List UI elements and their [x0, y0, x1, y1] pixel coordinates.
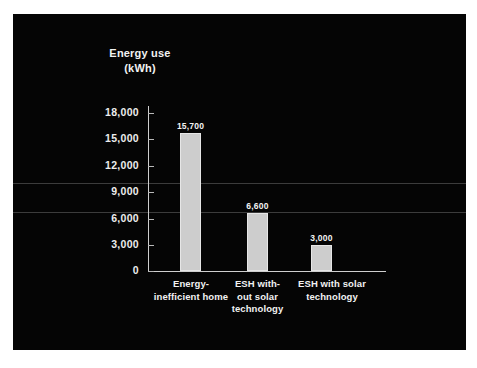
y-axis-tick-mark — [148, 245, 154, 246]
y-axis-tick-label: 0 — [133, 264, 139, 276]
bar-energy-inefficient-home — [180, 133, 201, 271]
bar-esh-without-solar — [247, 213, 268, 271]
bar-value-label: 3,000 — [296, 233, 347, 243]
y-axis-tick-mark — [148, 113, 154, 114]
y-axis-tick-label: 15,000 — [105, 132, 139, 144]
y-axis-title-line-1: Energy use — [85, 46, 195, 61]
y-axis-tick-mark — [148, 271, 154, 272]
y-axis-tick-label: 18,000 — [105, 106, 139, 118]
bar-value-label: 6,600 — [232, 201, 283, 211]
y-axis-tick-mark — [148, 139, 154, 140]
y-axis-tick-label: 3,000 — [111, 238, 139, 250]
y-axis-tick-label: 6,000 — [111, 212, 139, 224]
y-axis-tick-mark — [148, 192, 154, 193]
y-axis-tick-mark — [148, 166, 154, 167]
x-axis-category-esh-with-solar: ESH with solar technology — [283, 278, 381, 303]
scan-artifact-line-lower — [13, 212, 466, 213]
category-line: technology — [283, 291, 381, 304]
y-axis-tick-label: 12,000 — [105, 159, 139, 171]
category-line: technology — [220, 303, 295, 316]
chart-panel: Energy use (kWh) 18,000 15,000 12,000 9,… — [13, 14, 466, 350]
scan-artifact-line-upper — [13, 183, 466, 184]
y-axis-tick-mark — [148, 219, 154, 220]
y-axis-title-line-2: (kWh) — [85, 61, 195, 76]
y-axis-tick-label: 9,000 — [111, 185, 139, 197]
y-axis-line — [148, 106, 149, 272]
category-line: ESH with solar — [283, 278, 381, 291]
x-axis-line — [148, 271, 386, 272]
bar-esh-with-solar — [311, 245, 332, 271]
bar-value-label: 15,700 — [165, 121, 216, 131]
y-axis-title: Energy use (kWh) — [85, 46, 195, 76]
